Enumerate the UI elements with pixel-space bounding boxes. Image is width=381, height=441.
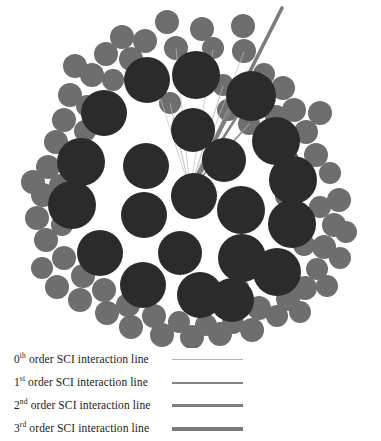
outer-wire-circle [232,39,256,63]
core-wire-circle [158,231,202,275]
core-wire-circle [48,181,96,229]
outer-wire-circle [25,206,49,230]
legend-line-sample-3rd-order [172,427,243,431]
core-wire-circle [120,262,166,308]
core-wire-circle [57,138,105,186]
outer-wire-circle [52,246,76,270]
core-wire-circle [253,248,301,296]
legend-label-2nd-order: 2nd order SCI interaction line [14,394,150,417]
outer-wire-circle [95,301,119,325]
legend-item-3rd-order: 3rd order SCI interaction line [0,417,381,440]
core-wire-circle [210,278,254,322]
outer-wire-circle [63,54,87,78]
figure-container: 0th order SCI interaction line 1st order… [0,0,381,441]
core-wire-circle [77,230,123,276]
outer-wire-circle [92,278,116,302]
outer-wire-circle [155,10,179,34]
core-wire-circle [226,71,276,121]
legend-label-0th-order: 0th order SCI interaction line [14,348,149,371]
legend-line-sample-1st-order [172,382,243,384]
core-wire-circle [202,138,246,182]
outer-wire-circle [319,162,341,184]
outer-wire-circle [52,108,76,132]
outer-wire-circle [231,14,255,38]
legend-label-3rd-order: 3rd order SCI interaction line [14,417,149,440]
core-wire-circle [268,200,316,248]
legend-label-1st-order: 1st order SCI interaction line [14,371,148,394]
outer-wire-circle [289,301,311,323]
outer-wire-circle [329,247,351,269]
core-wire-circle [171,173,217,219]
legend-line-sample-2nd-order [172,404,243,407]
wire-rope-cross-section-diagram [0,0,381,348]
core-wire-circle [81,90,127,136]
outer-wire-circle [94,42,118,66]
legend: 0th order SCI interaction line 1st order… [0,348,381,441]
outer-wire-circle [45,275,69,299]
legend-item-2nd-order: 2nd order SCI interaction line [0,394,381,417]
core-wire-circle [217,186,265,234]
outer-wire-circle [68,288,92,312]
core-wire-circle [124,57,170,103]
legend-item-1st-order: 1st order SCI interaction line [0,371,381,394]
outer-wire-circle [31,257,53,279]
legend-item-0th-order: 0th order SCI interaction line [0,348,381,371]
outer-wire-circle [21,170,45,194]
core-wire-circle [269,156,317,204]
core-wire-circle [121,192,167,238]
core-wire-circle [123,143,169,189]
outer-wire-circle [102,69,124,91]
outer-wire-circle [316,275,338,297]
outer-wire-circle [308,101,332,125]
legend-line-sample-0th-order [172,359,243,360]
outer-wire-circle [335,221,357,243]
outer-wire-circle [119,315,143,339]
outer-wire-circle [240,318,264,342]
core-wire-circle [172,51,220,99]
